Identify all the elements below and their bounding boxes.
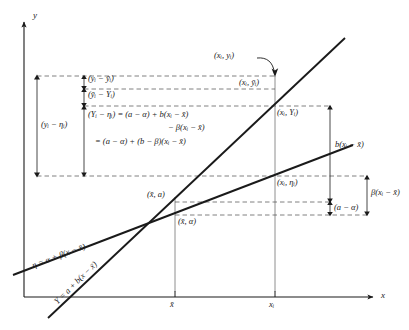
total-deviation-label: (yᵢ − ηᵢ) <box>41 120 67 130</box>
regression-decomposition-figure: y x x̄ xᵢ (xᵢ, yᵢ) (xᵢ, ȳᵢ) (xᵢ, Yᵢ) (xᵢ… <box>0 0 409 330</box>
bracket-equation-span <box>81 105 87 177</box>
observed-point-arrow <box>257 58 278 77</box>
true-slope-term-label: β(xᵢ − x̄) <box>371 188 400 198</box>
decomposition-equation-line3: = (a − α) + (b − β)(xᵢ − x̄) <box>95 135 186 147</box>
within-deviation-label: (yᵢ − ȳᵢ) <box>88 74 114 84</box>
true-mean-point-label: (xᵢ, ηᵢ) <box>277 178 298 188</box>
axis-lines <box>24 22 373 297</box>
x-axis-ticks <box>175 291 275 297</box>
lack-of-fit-deviation-label: (ȳᵢ − Yᵢ) <box>88 90 115 100</box>
decomposition-equation-line2: − β(xᵢ − x̄) <box>168 121 205 133</box>
fitted-at-xbar-point-label: (x̄, a) <box>147 190 165 200</box>
fitted-point-label: (xᵢ, Yᵢ) <box>277 108 298 118</box>
x-tick-label-xi: xᵢ <box>269 300 274 310</box>
figure-canvas <box>0 0 409 330</box>
bracket-total-deviation <box>34 75 40 178</box>
bracket-intercept-difference <box>327 201 333 216</box>
bracket-lack-of-fit-deviation <box>81 88 87 107</box>
dashed-reference-lines <box>37 76 367 215</box>
y-axis-label: y <box>33 10 37 20</box>
fitted-slope-term-label: b(xᵢ − x̄) <box>335 140 364 150</box>
x-tick-label-xbar: x̄ <box>170 300 174 310</box>
mean-response-point-label: (xᵢ, ȳᵢ) <box>239 78 259 88</box>
regression-lines <box>13 38 353 318</box>
observed-point-label: (xᵢ, yᵢ) <box>214 51 234 61</box>
x-axis-label: x <box>381 290 385 300</box>
true-at-xbar-point-label: (x̄, α) <box>178 217 196 227</box>
decomposition-equation-line1: (Yᵢ − ηᵢ) = (a − α) + b(xᵢ − x̄) <box>88 108 188 120</box>
bracket-true-slope-term <box>364 175 370 216</box>
intercept-difference-label: (a − α) <box>334 203 358 213</box>
